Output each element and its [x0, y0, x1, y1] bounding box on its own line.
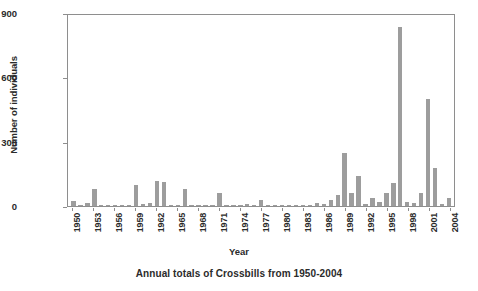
- bar: [196, 205, 200, 206]
- bar: [92, 189, 96, 206]
- x-axis-tick-label: 1995: [387, 213, 397, 232]
- bar-cell: [404, 15, 411, 206]
- x-axis-tick-mark: [408, 208, 409, 211]
- bar: [106, 205, 110, 206]
- x-axis-tick-mark: [345, 208, 346, 211]
- y-axis-title-text: Number of individuals: [8, 35, 19, 175]
- bar-cell: [445, 15, 452, 206]
- x-axis-tick-mark: [177, 208, 178, 211]
- x-axis-tick-mark: [450, 208, 451, 211]
- x-axis-tick-label: 1977: [261, 213, 271, 232]
- bar-cell: [244, 15, 251, 206]
- bar-cell: [70, 15, 77, 206]
- x-axis-tick-label: 2001: [429, 213, 439, 232]
- bar-cell: [188, 15, 195, 206]
- bar-cell: [390, 15, 397, 206]
- bar-cell: [411, 15, 418, 206]
- x-axis-tick-mark: [219, 208, 220, 211]
- bar-cell: [258, 15, 265, 206]
- bar: [398, 27, 402, 206]
- bar-cell: [299, 15, 306, 206]
- bar: [134, 185, 138, 206]
- bar: [342, 153, 346, 206]
- bar: [315, 203, 319, 206]
- bar: [245, 204, 249, 206]
- bar-cell: [272, 15, 279, 206]
- bar: [391, 183, 395, 206]
- bar-cell: [181, 15, 188, 206]
- bar: [120, 205, 124, 206]
- bar-cell: [77, 15, 84, 206]
- bar: [384, 193, 388, 206]
- x-axis-tick-mark: [261, 208, 262, 211]
- x-axis-tick-label: 1983: [303, 213, 313, 232]
- y-axis-title: Number of individuals: [8, 35, 22, 175]
- x-axis-tick-mark: [303, 208, 304, 211]
- x-axis-tick-mark: [114, 208, 115, 211]
- bar: [183, 189, 187, 206]
- bar: [322, 204, 326, 206]
- bar-cell: [119, 15, 126, 206]
- bar-cell: [376, 15, 383, 206]
- bar: [308, 205, 312, 206]
- bar-cell: [153, 15, 160, 206]
- y-axis-tick-label: 300: [0, 138, 17, 147]
- bar-cell: [327, 15, 334, 206]
- bar: [412, 203, 416, 206]
- x-axis-tick-labels: 1950195319561959196219651968197119741977…: [67, 208, 455, 242]
- plot-area: [67, 14, 455, 207]
- bar: [363, 204, 367, 206]
- bar-cell: [160, 15, 167, 206]
- bar-cell: [209, 15, 216, 206]
- bar: [440, 204, 444, 206]
- x-axis-tick-mark: [156, 208, 157, 211]
- bar: [426, 99, 430, 206]
- bar-cell: [418, 15, 425, 206]
- bar: [78, 205, 82, 206]
- bar: [113, 205, 117, 206]
- bar-cell: [432, 15, 439, 206]
- bar-cell: [112, 15, 119, 206]
- bar: [127, 205, 131, 206]
- bar-cell: [216, 15, 223, 206]
- bar: [203, 205, 207, 206]
- bar-cell: [355, 15, 362, 206]
- x-axis-tick-mark: [198, 208, 199, 211]
- bar-cell: [126, 15, 133, 206]
- bar: [266, 205, 270, 206]
- bar: [280, 205, 284, 206]
- bar: [238, 205, 242, 206]
- bar-cell: [348, 15, 355, 206]
- x-axis-title: Year: [0, 246, 478, 257]
- bar-cell: [223, 15, 230, 206]
- x-axis-tick-label: 1950: [72, 213, 82, 232]
- bar-cell: [334, 15, 341, 206]
- bar: [377, 202, 381, 206]
- bar: [189, 205, 193, 206]
- bar: [329, 200, 333, 206]
- chart-figure: Number of individuals 0300600900 1950195…: [0, 0, 478, 291]
- bar: [210, 205, 214, 206]
- bar: [287, 205, 291, 206]
- y-axis-tick-label: 900: [0, 9, 17, 18]
- bar: [99, 205, 103, 206]
- bar: [349, 193, 353, 206]
- bar-cell: [230, 15, 237, 206]
- bar: [224, 205, 228, 206]
- bar-cell: [251, 15, 258, 206]
- bar: [169, 205, 173, 206]
- bar-cell: [140, 15, 147, 206]
- bar-cell: [293, 15, 300, 206]
- x-axis-tick-mark: [135, 208, 136, 211]
- bar-cell: [202, 15, 209, 206]
- bar-cell: [313, 15, 320, 206]
- bar-cell: [84, 15, 91, 206]
- bar-cell: [195, 15, 202, 206]
- bar: [447, 198, 451, 206]
- x-axis-tick-mark: [93, 208, 94, 211]
- bar: [176, 205, 180, 206]
- bar: [259, 200, 263, 206]
- x-axis-tick-mark: [282, 208, 283, 211]
- bar-cell: [265, 15, 272, 206]
- bar-cell: [320, 15, 327, 206]
